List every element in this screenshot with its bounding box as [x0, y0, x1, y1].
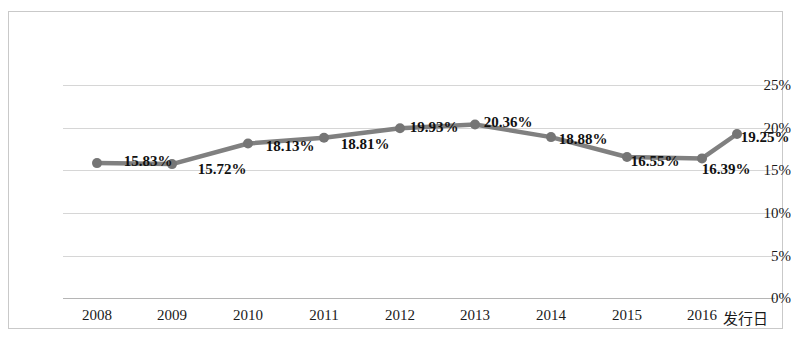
- x-tick-label-2011: 2011: [309, 307, 338, 324]
- line-chart-plot-area: 25% 20% 15% 10% 5% 0% 2008 2009 2010 201…: [0, 0, 791, 338]
- gridline-5: [63, 256, 775, 257]
- data-label-2016: 16.39%: [702, 161, 751, 178]
- data-label-2009: 15.72%: [198, 161, 247, 178]
- x-tick-label-2009: 2009: [157, 307, 187, 324]
- gridline-10: [63, 213, 775, 214]
- x-axis-line: [63, 298, 775, 299]
- x-tick-label-issue-date: 发行日: [723, 307, 768, 328]
- y-tick-label-0: 0%: [733, 290, 791, 307]
- data-label-2015: 16.55%: [631, 153, 680, 170]
- data-point-marker: [243, 139, 253, 149]
- data-point-marker: [546, 132, 556, 142]
- gridline-25: [63, 85, 775, 86]
- y-tick-label-5: 5%: [733, 248, 791, 265]
- y-tick-label-10: 10%: [733, 205, 791, 222]
- data-point-marker: [92, 158, 102, 168]
- x-tick-label-2014: 2014: [536, 307, 566, 324]
- gridline-15: [63, 170, 775, 171]
- data-point-marker: [319, 133, 329, 143]
- x-tick-label-2008: 2008: [82, 307, 112, 324]
- y-tick-label-25: 25%: [733, 77, 791, 94]
- data-label-2013: 20.36%: [484, 114, 533, 131]
- data-label-2014: 18.88%: [559, 131, 608, 148]
- data-label-2008: 15.83%: [124, 153, 173, 170]
- x-tick-label-2013: 2013: [460, 307, 490, 324]
- data-label-2011: 18.81%: [341, 136, 390, 153]
- data-label-2012: 19.93%: [410, 119, 459, 136]
- data-label-issue-date: 19.25%: [741, 129, 790, 146]
- x-tick-label-2015: 2015: [612, 307, 642, 324]
- x-tick-label-2012: 2012: [385, 307, 415, 324]
- x-tick-label-2016: 2016: [687, 307, 717, 324]
- x-tick-label-2010: 2010: [233, 307, 263, 324]
- data-label-2010: 18.13%: [266, 138, 315, 155]
